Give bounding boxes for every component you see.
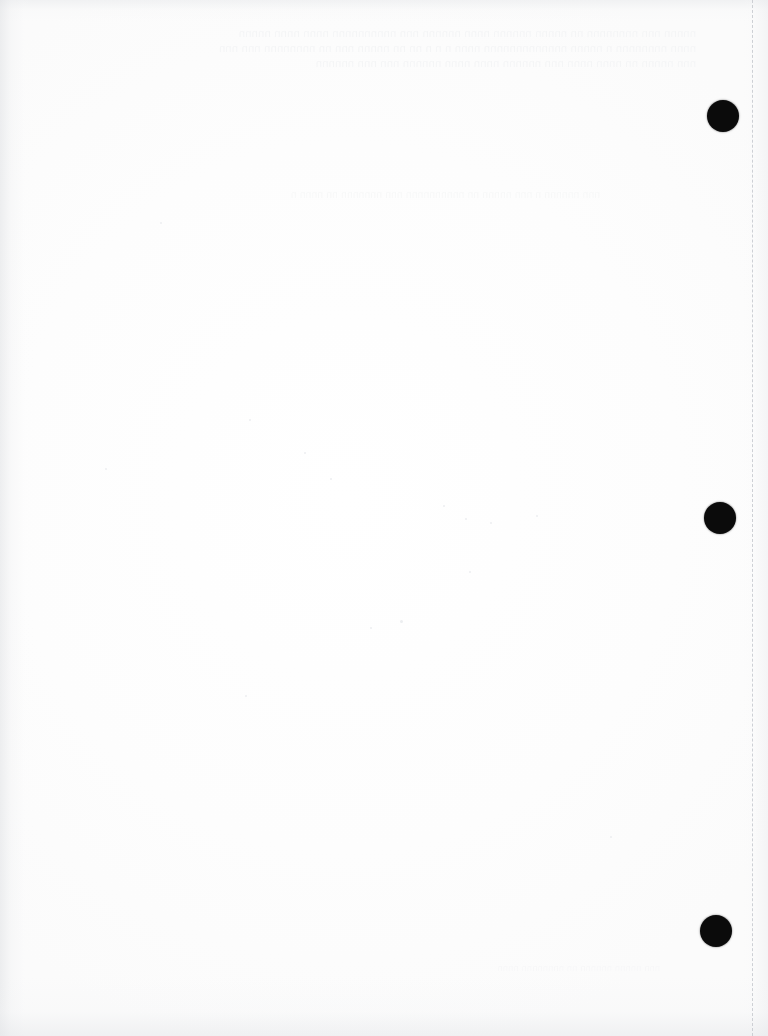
scanned-document-page: nnnnn nnn nnnnnnnn nn nnnnn nnnnnn nnnn …: [0, 0, 768, 1036]
top-punch-mark: [707, 100, 739, 132]
bottom-punch-mark: [700, 915, 732, 947]
middle-punch-mark: [704, 502, 736, 534]
paper-surface: [0, 0, 768, 1036]
